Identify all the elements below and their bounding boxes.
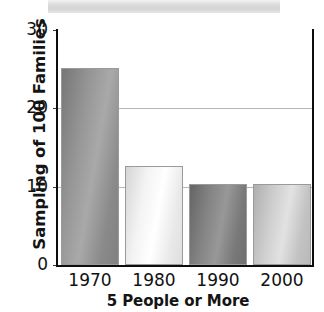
y-tick-label-30: 30 xyxy=(14,21,48,38)
y-tick-label-10: 10 xyxy=(14,178,48,195)
x-tick-label-1980: 1980 xyxy=(119,270,189,290)
x-axis-line xyxy=(56,265,314,267)
bar-2000 xyxy=(253,184,311,265)
top-banner-label xyxy=(48,0,280,13)
bar-1990 xyxy=(189,184,247,265)
y-axis-title: Sampling of 100 Families xyxy=(29,18,51,250)
x-tick-label-2000: 2000 xyxy=(247,270,317,290)
bars-group xyxy=(58,30,314,265)
plot-right-border xyxy=(312,29,314,267)
x-tick-label-1970: 1970 xyxy=(55,270,125,290)
x-axis-title: 5 People or More xyxy=(44,292,312,310)
y-tick-label-0: 0 xyxy=(14,256,48,273)
x-tick-label-1990: 1990 xyxy=(183,270,253,290)
bar-1970 xyxy=(61,68,119,265)
y-tick-label-20: 20 xyxy=(14,99,48,116)
top-banner xyxy=(48,0,280,13)
bar-chart-figure: Sampling of 100 Families 0102030 1970198… xyxy=(0,0,324,312)
bar-1980 xyxy=(125,166,183,265)
y-axis-line xyxy=(56,29,58,267)
